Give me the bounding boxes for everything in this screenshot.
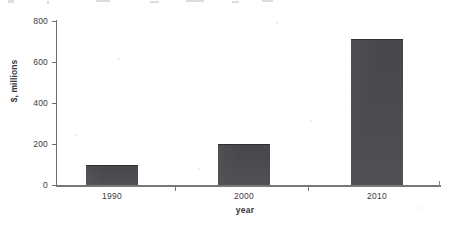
bar-chart-figure: $, millions 800 600 400 200 0 1990 2000 … bbox=[0, 0, 451, 225]
x-tick-1 bbox=[175, 186, 176, 191]
y-tick-label-400: 400 bbox=[2, 98, 48, 108]
page-speckle bbox=[276, 22, 278, 24]
x-tick-label-2000: 2000 bbox=[209, 191, 279, 201]
y-tick-label-600: 600 bbox=[2, 57, 48, 67]
x-tick-label-2010: 2010 bbox=[342, 191, 412, 201]
x-axis-line bbox=[56, 185, 441, 187]
bar-2000 bbox=[218, 144, 270, 186]
bar-1990 bbox=[86, 165, 138, 187]
x-axis-end-cap bbox=[439, 181, 440, 187]
bar-2010 bbox=[351, 39, 403, 186]
x-tick-2 bbox=[308, 186, 309, 191]
page-speckle bbox=[198, 168, 200, 170]
y-tick-label-0: 0 bbox=[2, 180, 48, 190]
y-tick-800 bbox=[52, 21, 57, 22]
y-axis-title: $, millions bbox=[9, 39, 19, 123]
y-tick-400 bbox=[52, 103, 57, 104]
y-tick-label-800: 800 bbox=[2, 16, 48, 26]
y-tick-600 bbox=[52, 62, 57, 63]
x-tick-label-1990: 1990 bbox=[77, 191, 147, 201]
y-tick-200 bbox=[52, 144, 57, 145]
page-speckle bbox=[75, 134, 77, 136]
page-speckle bbox=[118, 58, 120, 60]
scan-artifact-top bbox=[0, 0, 451, 4]
y-tick-label-200: 200 bbox=[2, 139, 48, 149]
page-speckle bbox=[310, 120, 312, 122]
x-axis-title: year bbox=[0, 205, 451, 215]
